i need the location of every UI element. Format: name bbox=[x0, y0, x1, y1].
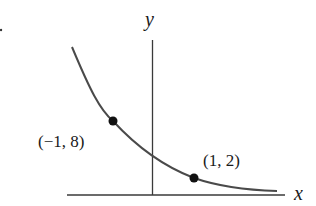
point-label-neg1-8: (−1, 8) bbox=[38, 132, 84, 151]
x-axis-label: x bbox=[293, 182, 303, 204]
y-axis-label: y bbox=[143, 8, 154, 31]
point-1-2 bbox=[190, 174, 199, 183]
stray-dot bbox=[0, 29, 2, 31]
graph-canvas: y x (−1, 8) (1, 2) bbox=[0, 0, 316, 206]
point-label-1-2: (1, 2) bbox=[203, 151, 240, 170]
exponential-curve bbox=[72, 47, 277, 191]
point-neg1-8 bbox=[109, 117, 118, 126]
